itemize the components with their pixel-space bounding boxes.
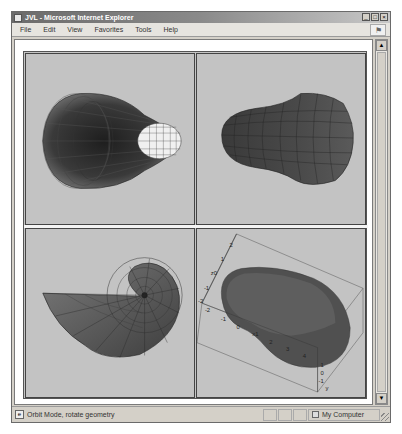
window-title: JVL - Microsoft Internet Explorer [25,14,133,21]
y-axis-label: y [325,385,328,391]
x-tick-2: 2 [269,339,272,345]
security-zone: My Computer [308,409,380,421]
ie-app-icon [14,14,22,22]
scroll-thumb[interactable] [377,52,386,392]
computer-icon [312,411,319,418]
menu-edit[interactable]: Edit [43,26,55,33]
menu-view[interactable]: View [67,26,82,33]
y-tick-neg1: -1 [319,378,324,384]
z-tick-neg2: -2 [198,298,203,304]
x-tick-1: x1 [252,331,258,337]
page-status-icon: e [15,410,24,419]
tube-end-view-graphic [26,54,194,224]
viewport-top-left[interactable] [25,53,195,225]
resize-grip-icon[interactable] [381,413,389,421]
status-cell-1 [263,409,277,421]
menu-tools[interactable]: Tools [135,26,151,33]
viewport-top-right[interactable] [196,53,366,225]
minimize-button[interactable]: _ [362,13,370,21]
zone-label: My Computer [322,411,364,418]
z-tick-1: 1 [221,256,224,262]
y-tick-0: 0 [321,370,325,376]
menu-help[interactable]: Help [164,26,178,33]
menu-file[interactable]: File [20,26,31,33]
menu-favorites[interactable]: Favorites [94,26,123,33]
browser-window: JVL - Microsoft Internet Explorer _ □ × … [11,11,391,423]
scroll-up-button[interactable]: ▲ [376,40,387,51]
close-button[interactable]: × [380,13,388,21]
status-cell-3 [293,409,307,421]
vertical-scrollbar[interactable]: ▲ ▼ [375,39,388,405]
status-text: Orbit Mode, rotate geometry [27,411,263,418]
viewport-bottom-right[interactable]: 2 1 z0 -1 -2 -2 -1 0 x1 2 3 4 1 0 -1 y [196,228,366,398]
y-tick-1: 1 [321,362,324,368]
nautilus-shell-graphic [26,229,194,397]
z-tick-2: 2 [230,242,233,248]
page-content: 2 1 z0 -1 -2 -2 -1 0 x1 2 3 4 1 0 -1 y [14,39,373,405]
status-cell-2 [278,409,292,421]
window-controls: _ □ × [362,13,388,21]
z-tick-neg1: -1 [204,285,209,291]
title-bar[interactable]: JVL - Microsoft Internet Explorer _ □ × [12,12,390,23]
jvl-viewer[interactable]: 2 1 z0 -1 -2 -2 -1 0 x1 2 3 4 1 0 -1 y [23,51,367,399]
x-tick-neg1: -1 [221,316,226,322]
status-bar: e Orbit Mode, rotate geometry My Compute… [12,406,390,422]
kidney-surface-graphic: 2 1 z0 -1 -2 -2 -1 0 x1 2 3 4 1 0 -1 y [197,229,365,397]
menu-bar: File Edit View Favorites Tools Help ⚑ [12,23,390,37]
x-tick-neg2: -2 [205,307,210,313]
viewport-bottom-left[interactable] [25,228,195,398]
scroll-down-button[interactable]: ▼ [376,393,387,404]
z-tick-0: z0 [211,270,218,276]
windows-flag-icon: ⚑ [370,24,386,36]
tube-side-view-graphic [197,54,365,224]
maximize-button[interactable]: □ [371,13,379,21]
